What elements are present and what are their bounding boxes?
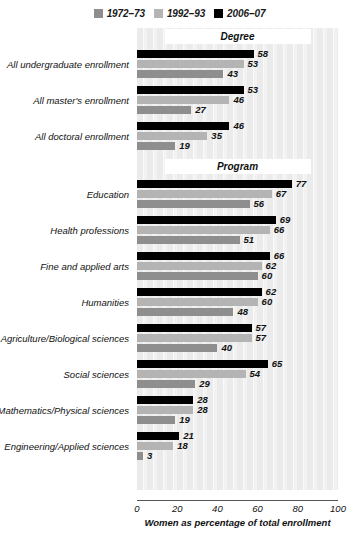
legend-swatch-icon bbox=[214, 9, 223, 18]
bar-value-label: 51 bbox=[244, 234, 255, 245]
category-label: Humanities bbox=[81, 297, 129, 308]
legend-swatch-icon bbox=[94, 9, 103, 18]
bar-value-label: 77 bbox=[296, 178, 307, 189]
bar-value-label: 65 bbox=[272, 358, 283, 369]
bar-value-label: 58 bbox=[258, 48, 269, 59]
bar-row: 43 bbox=[137, 70, 338, 78]
bar bbox=[137, 360, 268, 368]
bar-value-label: 60 bbox=[262, 270, 273, 281]
bar-row: 46 bbox=[137, 96, 338, 104]
section-title: Program bbox=[217, 161, 258, 172]
bar bbox=[137, 86, 244, 94]
bar-value-label: 66 bbox=[274, 224, 285, 235]
category-label: Education bbox=[87, 189, 129, 200]
category-label: Fine and applied arts bbox=[40, 261, 129, 272]
bar-row: 54 bbox=[137, 370, 338, 378]
bar-row: 3 bbox=[137, 452, 338, 460]
section-header-band: Program bbox=[137, 158, 338, 174]
bar bbox=[137, 180, 292, 188]
section-title: Degree bbox=[221, 31, 255, 42]
bar-value-label: 53 bbox=[248, 84, 259, 95]
bar bbox=[137, 432, 179, 440]
legend-item-label: 1992–93 bbox=[167, 8, 205, 19]
bar bbox=[137, 344, 217, 352]
category-label: All undergraduate enrollment bbox=[7, 59, 129, 70]
section-header-box: Degree bbox=[165, 29, 311, 44]
bar-value-label: 43 bbox=[227, 68, 238, 79]
bar-row: 60 bbox=[137, 298, 338, 306]
bar bbox=[137, 262, 262, 270]
bar bbox=[137, 298, 258, 306]
bar bbox=[137, 226, 270, 234]
bar-value-label: 19 bbox=[179, 140, 190, 151]
bar-value-label: 29 bbox=[199, 378, 210, 389]
bar-row: 58 bbox=[137, 50, 338, 58]
x-axis-tick-label: 20 bbox=[172, 503, 183, 514]
bar-row: 66 bbox=[137, 226, 338, 234]
bar-row: 69 bbox=[137, 216, 338, 224]
bar bbox=[137, 370, 246, 378]
bar-value-label: 56 bbox=[254, 198, 265, 209]
bar-value-label: 46 bbox=[233, 120, 244, 131]
bar bbox=[137, 442, 173, 450]
bar-row: 53 bbox=[137, 86, 338, 94]
bar-value-label: 53 bbox=[248, 58, 259, 69]
bar bbox=[137, 122, 229, 130]
bar-value-label: 46 bbox=[233, 94, 244, 105]
bar-value-label: 48 bbox=[237, 306, 248, 317]
bar bbox=[137, 380, 195, 388]
bar-value-label: 3 bbox=[147, 450, 152, 461]
category-label: All doctoral enrollment bbox=[35, 131, 129, 142]
legend-item: 1992–93 bbox=[154, 8, 205, 19]
chart-legend: 1972–731992–932006–07 bbox=[0, 8, 359, 19]
bar-row: 56 bbox=[137, 200, 338, 208]
x-axis-tick-label: 60 bbox=[252, 503, 263, 514]
bar-row: 28 bbox=[137, 406, 338, 414]
bar-row: 27 bbox=[137, 106, 338, 114]
bar bbox=[137, 190, 272, 198]
category-label: Social sciences bbox=[64, 369, 129, 380]
bar-row: 66 bbox=[137, 252, 338, 260]
category-labels-column: All undergraduate enrollmentAll master's… bbox=[0, 28, 133, 490]
bar bbox=[137, 60, 244, 68]
bar bbox=[137, 106, 191, 114]
bar-row: 60 bbox=[137, 272, 338, 280]
bar-row: 57 bbox=[137, 334, 338, 342]
bar-value-label: 27 bbox=[195, 104, 206, 115]
legend-item: 2006–07 bbox=[214, 8, 265, 19]
legend-item: 1972–73 bbox=[94, 8, 145, 19]
bar bbox=[137, 50, 254, 58]
legend-item-label: 1972–73 bbox=[107, 8, 145, 19]
bar bbox=[137, 396, 193, 404]
bar bbox=[137, 200, 250, 208]
category-label: Health professions bbox=[50, 225, 129, 236]
x-axis-tick-label: 40 bbox=[212, 503, 223, 514]
bar bbox=[137, 406, 193, 414]
bar bbox=[137, 252, 270, 260]
bar-row: 57 bbox=[137, 324, 338, 332]
x-axis-tick-label: 80 bbox=[293, 503, 304, 514]
bar-row: 53 bbox=[137, 60, 338, 68]
bar-row: 62 bbox=[137, 262, 338, 270]
bar-row: 35 bbox=[137, 132, 338, 140]
legend-swatch-icon bbox=[154, 9, 163, 18]
bar bbox=[137, 236, 240, 244]
bar-row: 51 bbox=[137, 236, 338, 244]
category-label: All master's enrollment bbox=[33, 95, 129, 106]
bar bbox=[137, 288, 262, 296]
bar-row: 29 bbox=[137, 380, 338, 388]
bar-row: 46 bbox=[137, 122, 338, 130]
bar-value-label: 18 bbox=[177, 440, 188, 451]
bar bbox=[137, 308, 233, 316]
x-axis-title: Women as percentage of total enrollment bbox=[137, 517, 338, 528]
bar-row: 21 bbox=[137, 432, 338, 440]
section-header-band: Degree bbox=[137, 28, 338, 44]
category-label: Agriculture/Biological sciences bbox=[1, 333, 129, 344]
bar bbox=[137, 334, 252, 342]
bar bbox=[137, 416, 175, 424]
category-label: Engineering/Applied sciences bbox=[4, 441, 129, 452]
bar bbox=[137, 142, 175, 150]
bar-value-label: 54 bbox=[250, 368, 261, 379]
section-header-box: Program bbox=[165, 159, 311, 174]
chart-area: All undergraduate enrollmentAll master's… bbox=[0, 28, 359, 500]
